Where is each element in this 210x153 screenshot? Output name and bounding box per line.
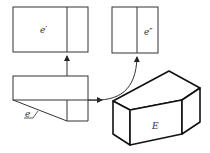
label-top-view: e <box>25 109 30 119</box>
solid-E <box>113 71 200 145</box>
front-view <box>13 7 88 52</box>
label-solid: E <box>151 121 159 131</box>
label-side-view: e″ <box>144 27 153 37</box>
projection-diagram: e′ e″ e E <box>0 0 210 153</box>
label-front-view: e′ <box>40 25 47 35</box>
